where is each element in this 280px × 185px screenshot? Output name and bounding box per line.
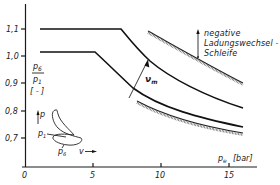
x-tick-labels: 0 5 10 15 [22, 171, 234, 180]
svg-text:p1: p1 [37, 129, 46, 139]
y-axis-label: p6 p1 [ - ] [30, 62, 44, 96]
x-tick-label: 5 [90, 171, 95, 180]
svg-text:p1: p1 [32, 75, 42, 85]
x-tick-label: 0 [22, 171, 27, 180]
svg-text:[ - ]: [ - ] [30, 87, 44, 96]
chart-figure: 1,1 1,0 0,9 0,8 0,7 0 5 10 15 pe [bar] p… [0, 0, 280, 185]
y-tick-label: 0,8 [5, 107, 18, 116]
double-arrow-icon [196, 29, 199, 58]
svg-text:p6: p6 [57, 147, 66, 157]
y-tick-label: 0,9 [5, 79, 18, 88]
inset-pv-diagram: p p1 p6 v [37, 110, 98, 157]
y-ticks [21, 29, 26, 138]
x-tick-label: 15 [224, 171, 234, 180]
x-tick-label: 10 [155, 171, 165, 180]
note-line-3: Schleife [204, 49, 237, 58]
note-line-2: Ladungswechsel - [204, 39, 279, 48]
y-tick-label: 1,1 [6, 25, 19, 34]
vm-label: νm [145, 74, 157, 85]
svg-text:[bar]: [bar] [233, 154, 253, 163]
svg-text:pe: pe [217, 154, 227, 164]
y-tick-label: 1,0 [6, 52, 19, 61]
svg-text:p6: p6 [32, 62, 42, 72]
svg-text:p: p [39, 110, 45, 119]
svg-text:v: v [79, 147, 84, 156]
x-axis-label: pe [bar] [217, 154, 253, 164]
y-tick-labels: 1,1 1,0 0,9 0,8 0,7 [5, 25, 19, 143]
lower-solid-curve [40, 52, 243, 127]
note-line-1: negative [204, 29, 241, 38]
lower-hatched-curve [137, 101, 243, 135]
y-tick-label: 0,7 [5, 134, 19, 143]
